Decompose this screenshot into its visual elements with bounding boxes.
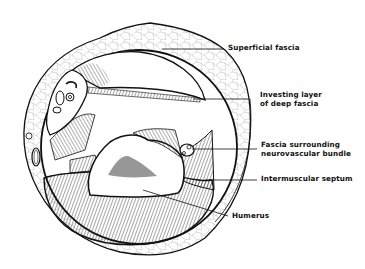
label-investing-layer: Investing layer of deep fascia — [260, 91, 322, 108]
arm-cross-section-illustration — [0, 0, 365, 269]
label-superficial-fascia: Superficial fascia — [228, 44, 300, 53]
label-fascia-neurovascular: Fascia surrounding neurovascular bundle — [261, 141, 351, 158]
label-intermuscular-septum: Intermuscular septum — [261, 175, 353, 184]
label-humerus: Humerus — [232, 212, 269, 221]
label-fascia-neurovascular-line2: neurovascular bundle — [261, 150, 351, 159]
label-investing-layer-line2: of deep fascia — [260, 100, 322, 109]
